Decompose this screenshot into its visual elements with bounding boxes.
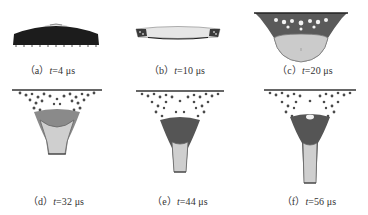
- caption-label: （c）: [277, 65, 302, 76]
- caption-label: （f）: [282, 196, 306, 207]
- caption-value: =32 μs: [56, 196, 84, 207]
- caption-value: =20 μs: [305, 65, 333, 76]
- panel-d-image: [12, 88, 102, 160]
- thin-disk-shape-icon: [134, 22, 222, 42]
- caption-value: =10 μs: [177, 65, 205, 76]
- dome-shape-icon: [12, 20, 100, 50]
- caption-value: =4 μs: [52, 65, 75, 76]
- caption-a: （a）t=4 μs: [25, 62, 76, 77]
- cone-shape-icon: [12, 88, 102, 160]
- caption-label: （e）: [152, 196, 177, 207]
- caption-c: （c）t=20 μs: [277, 62, 333, 77]
- bowl-shape-icon: [254, 10, 348, 64]
- panel-f-image: [264, 87, 356, 189]
- caption-label: （d）: [28, 196, 53, 207]
- panel-e-image: [136, 88, 224, 180]
- panel-c-image: [254, 10, 348, 64]
- panel-b-image: [134, 22, 222, 42]
- caption-label: （b）: [149, 65, 174, 76]
- funnel-shape-icon: [136, 88, 224, 180]
- long-funnel-shape-icon: [264, 87, 356, 189]
- panel-a-image: [12, 20, 100, 50]
- caption-value: =44 μs: [180, 196, 208, 207]
- caption-label: （a）: [25, 65, 50, 76]
- caption-f: （f）t=56 μs: [282, 193, 337, 208]
- caption-value: =56 μs: [308, 196, 336, 207]
- caption-b: （b）t=10 μs: [149, 62, 205, 77]
- caption-d: （d）t=32 μs: [28, 193, 84, 208]
- caption-e: （e）t=44 μs: [152, 193, 208, 208]
